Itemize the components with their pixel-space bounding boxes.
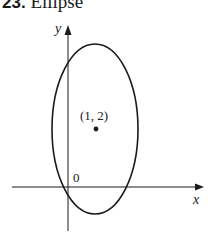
point-label: (1, 2): [80, 108, 108, 123]
center-point: [94, 127, 99, 132]
origin-label: 0: [73, 170, 80, 185]
x-axis-arrow-icon: [195, 184, 204, 191]
x-axis-label: x: [192, 192, 200, 207]
ellipse-diagram: y x 0 (1, 2): [0, 0, 212, 239]
y-axis-label: y: [53, 21, 62, 36]
y-axis-arrow-icon: [65, 25, 72, 35]
x-axis: [12, 184, 204, 191]
